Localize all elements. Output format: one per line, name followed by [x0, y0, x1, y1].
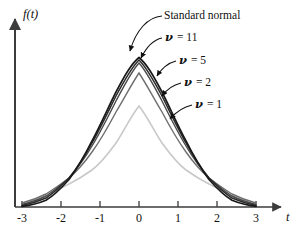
x-axis-label: t [286, 211, 289, 224]
callout-nu-11: ν= 11 [165, 32, 197, 44]
plot-area [0, 0, 298, 246]
nu-1-value: = 1 [207, 98, 222, 110]
callout-nu-2: ν= 2 [184, 77, 211, 89]
callout-nu-5: ν= 5 [179, 55, 206, 67]
curve-nu-2 [22, 73, 256, 203]
nu-5-value: = 5 [191, 54, 206, 66]
x-tick-label--1: -1 [90, 212, 110, 224]
leader-standard-normal [130, 16, 162, 51]
nu-symbol-1: ν [195, 97, 203, 111]
curve-nu-5 [22, 63, 256, 205]
x-tick-label-0: 0 [129, 212, 149, 224]
density-curves [22, 58, 256, 207]
leader-nu-2 [162, 83, 181, 96]
curve-nu-11 [22, 60, 256, 206]
x-tick-label-3: 3 [246, 212, 266, 224]
nu-symbol-5: ν [179, 53, 187, 67]
nu-symbol-11: ν [165, 30, 173, 44]
nu-symbol-2: ν [184, 75, 192, 89]
x-axis-ticks [22, 201, 256, 207]
nu-11-value: = 11 [177, 31, 197, 43]
y-axis-label: f(t) [23, 8, 38, 21]
nu-2-value: = 2 [196, 76, 211, 88]
leader-nu-11 [141, 38, 162, 58]
x-tick-label-1: 1 [168, 212, 188, 224]
t-distribution-chart: f(t) t -3 -2 -1 0 1 2 3 Standard normal … [0, 0, 298, 246]
x-tick-label-2: 2 [207, 212, 227, 224]
callout-nu-1: ν= 1 [195, 99, 222, 111]
curve-standard-normal [22, 58, 256, 207]
x-tick-label--3: -3 [12, 212, 32, 224]
leader-nu-5 [157, 61, 176, 76]
x-tick-label--2: -2 [51, 212, 71, 224]
callout-standard-normal: Standard normal [164, 10, 240, 22]
